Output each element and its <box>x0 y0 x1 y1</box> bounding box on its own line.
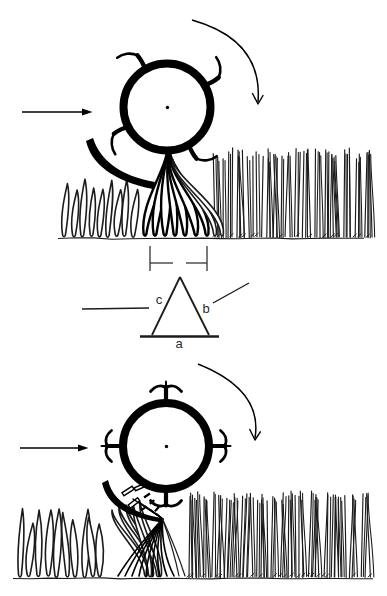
crop-blade <box>237 498 239 577</box>
crop-blade <box>275 498 276 577</box>
crop-loop <box>71 520 78 577</box>
crop-blade <box>292 494 295 576</box>
flared-tine <box>212 431 231 462</box>
crop-blade <box>225 161 226 238</box>
crop-left-flattened <box>62 179 139 237</box>
crop-blade <box>327 495 328 577</box>
crop-loop <box>80 179 87 237</box>
crop-blade <box>331 495 333 577</box>
crop-blade <box>344 150 345 237</box>
rotor-drum <box>106 48 226 166</box>
crop-bundle <box>143 154 223 236</box>
crop-loop <box>114 190 122 236</box>
drum-axle-dot <box>165 445 168 448</box>
crop-blade <box>306 154 307 238</box>
crop-blade <box>315 500 316 576</box>
crop-blade <box>228 152 229 238</box>
crop-right-standing <box>187 491 374 578</box>
crop-loop <box>87 517 96 576</box>
crop-blade <box>361 494 363 577</box>
crop-loop <box>53 509 61 577</box>
crop-blade <box>259 154 260 236</box>
flared-tine <box>151 382 182 401</box>
crop-right-standing <box>213 148 375 238</box>
rotor-drum <box>102 382 231 507</box>
crop-blade <box>345 496 346 578</box>
debris-piece <box>122 486 134 496</box>
crop-blade <box>295 149 297 237</box>
crop-loop <box>72 190 79 237</box>
crop-blade <box>253 498 255 577</box>
diagram-page: c b a <box>0 0 387 596</box>
triangle-label-a: a <box>175 336 183 351</box>
crop-loop <box>45 510 53 576</box>
crop-blade <box>189 496 190 577</box>
ground-line <box>13 578 373 579</box>
crop-blade <box>242 150 244 237</box>
crop-blade <box>257 500 258 576</box>
flared-tine <box>151 492 182 506</box>
crop-blade <box>328 152 329 238</box>
crop-blade <box>365 153 367 237</box>
flared-tine <box>102 431 121 462</box>
drum-axle-dot <box>166 106 169 109</box>
crop-loop <box>106 180 113 237</box>
triangle-label-c: c <box>156 292 163 307</box>
crop-blade <box>259 503 260 576</box>
crop-blade <box>330 497 331 578</box>
crop-blade <box>212 492 214 577</box>
crop-blade <box>302 151 304 237</box>
crop-blade <box>325 150 326 237</box>
diagram-canvas: c b a <box>0 0 387 596</box>
crop-blade <box>224 498 227 577</box>
crop-blade <box>250 493 252 576</box>
crop-blade <box>232 148 233 237</box>
travel-arrow-icon <box>22 109 93 116</box>
crop-loop <box>62 513 70 577</box>
crop-blade <box>237 150 238 238</box>
crop-blade <box>327 153 328 238</box>
crop-blade <box>321 156 323 238</box>
crop-blade <box>247 157 249 238</box>
crop-blade <box>250 161 251 238</box>
crop-blade <box>360 157 362 237</box>
crop-blade <box>267 501 268 577</box>
crop-loop <box>122 180 129 236</box>
crop-loop <box>62 184 69 237</box>
crop-blade <box>283 159 284 237</box>
travel-arrow-icon <box>20 445 89 452</box>
triangle-diagram: c b a <box>82 277 249 351</box>
crop-blade <box>288 496 289 578</box>
crop-blade <box>240 496 243 577</box>
width-dimension <box>150 246 207 271</box>
crop-loop <box>35 510 41 576</box>
crop-blade <box>355 159 356 237</box>
crop-loop <box>18 509 24 577</box>
crop-blade <box>309 491 312 577</box>
crop-loop <box>89 188 95 236</box>
stem <box>163 519 186 576</box>
crop-blade <box>317 152 318 238</box>
triangle-label-b: b <box>202 301 209 316</box>
figure-bottom <box>13 364 374 579</box>
crop-blade <box>285 156 288 236</box>
crop-blade <box>359 154 360 237</box>
crop-loop <box>131 190 139 238</box>
leader-line-right <box>213 283 249 303</box>
debris-piece <box>143 493 150 499</box>
crop-blade <box>330 155 331 237</box>
crop-blade <box>256 152 257 237</box>
crop-blade <box>262 156 264 236</box>
crop-blade <box>276 502 278 577</box>
leader-line-left <box>82 308 149 309</box>
crop-loop <box>26 523 35 576</box>
figure-top <box>22 20 375 271</box>
crop-blade <box>315 149 316 237</box>
ground-line <box>58 238 364 239</box>
crop-blade <box>308 149 311 237</box>
crop-loop <box>97 189 104 236</box>
crop-blade <box>281 156 282 238</box>
crop-loop <box>96 524 103 577</box>
